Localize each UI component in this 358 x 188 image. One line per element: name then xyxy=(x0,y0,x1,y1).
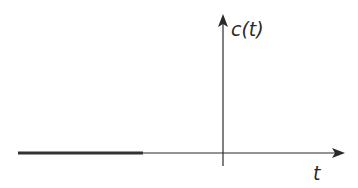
t-axis-label: t xyxy=(313,164,320,183)
c-axis-label: c(t) xyxy=(231,20,264,39)
signal-diagram: c(t) t xyxy=(0,0,358,188)
axes-svg xyxy=(0,0,358,188)
